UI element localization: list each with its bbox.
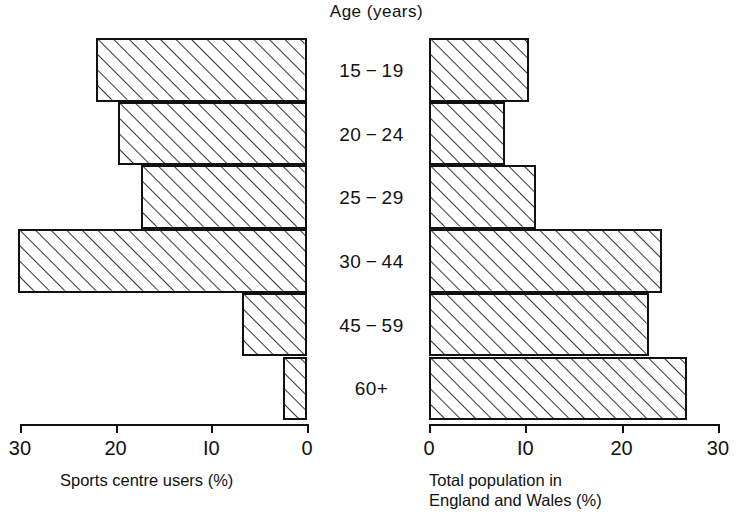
bar-right-60+: [429, 357, 687, 421]
right-tick-10: [525, 424, 527, 433]
bar-hatch-fill: [431, 231, 660, 291]
bar-hatch-fill: [431, 104, 503, 164]
bar-right-30-44: [429, 229, 662, 293]
right-axis-line: [429, 424, 718, 426]
right-tick-0: [429, 424, 431, 433]
left-tick-label-20: 20: [104, 438, 126, 458]
bar-left-15-19: [96, 38, 307, 102]
bar-hatch-fill: [120, 104, 305, 164]
left-tick-0: [307, 424, 309, 433]
right-tick-label-10: I0: [517, 438, 534, 458]
bar-right-45-59: [429, 293, 649, 357]
bar-left-30-44: [18, 229, 307, 293]
bar-right-25-29: [429, 165, 536, 229]
bar-hatch-fill: [244, 295, 305, 355]
right-tick-30: [718, 424, 720, 433]
right-tick-label-0: 0: [423, 438, 434, 458]
bar-hatch-fill: [431, 359, 685, 419]
bar-hatch-fill: [98, 40, 305, 100]
chart-canvas: Age (years) 3020I00 Sports centre users …: [0, 0, 743, 531]
bar-right-20-24: [429, 102, 505, 166]
bar-hatch-fill: [431, 167, 534, 227]
bar-hatch-fill: [431, 295, 647, 355]
right-axis-caption-line1: Total population in: [429, 470, 602, 490]
right-tick-label-20: 20: [610, 438, 632, 458]
left-tick-20: [116, 424, 118, 433]
right-tick-20: [622, 424, 624, 433]
bar-left-20-24: [118, 102, 307, 166]
bar-hatch-fill: [431, 40, 527, 100]
bar-left-60+: [283, 357, 307, 421]
left-tick-label-30: 30: [9, 438, 31, 458]
left-axis-line: [20, 424, 307, 426]
bar-right-15-19: [429, 38, 529, 102]
bar-hatch-fill: [285, 359, 305, 419]
bar-left-45-59: [242, 293, 307, 357]
right-axis-caption-line2: England and Wales (%): [429, 490, 602, 510]
left-axis-caption: Sports centre users (%): [60, 470, 233, 490]
left-tick-label-10: I0: [203, 438, 220, 458]
right-axis-caption: Total population in England and Wales (%…: [429, 470, 602, 510]
right-panel: 0I02030 Total population in England and …: [371, 0, 743, 531]
bar-hatch-fill: [20, 231, 305, 291]
left-tick-30: [20, 424, 22, 433]
bar-hatch-fill: [143, 167, 305, 227]
left-axis-caption-line: Sports centre users (%): [60, 470, 233, 490]
left-tick-10: [211, 424, 213, 433]
right-tick-label-30: 30: [707, 438, 729, 458]
bar-left-25-29: [141, 165, 307, 229]
